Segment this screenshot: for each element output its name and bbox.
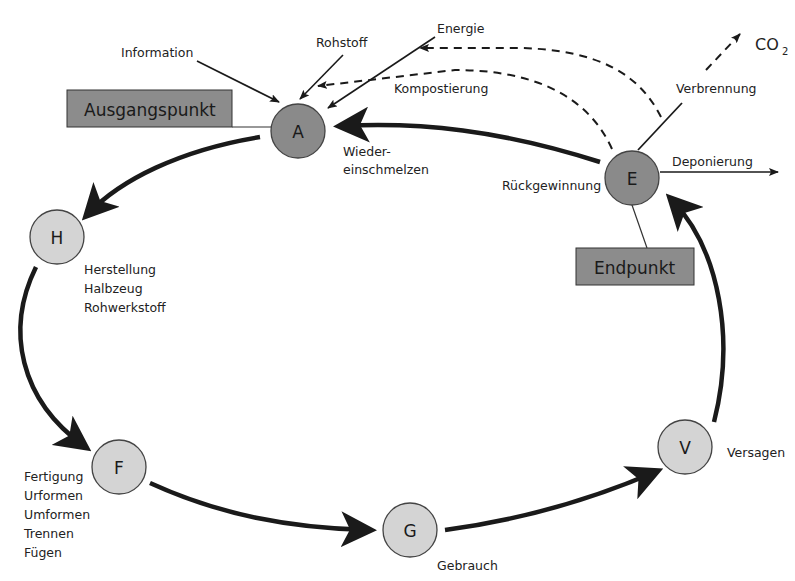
end-box-label: Endpunkt xyxy=(594,258,675,278)
node-a-letter: A xyxy=(292,122,304,142)
label-rueckgewinnung: Rückgewinnung xyxy=(502,178,601,193)
start-box-label: Ausgangspunkt xyxy=(84,100,216,120)
label-rohstoff: Rohstoff xyxy=(316,35,368,50)
node-f: F xyxy=(92,440,146,494)
label-f-line3: Umformen xyxy=(24,507,90,522)
life-cycle-diagram: Ausgangspunkt Endpunkt A H xyxy=(0,0,795,581)
label-f-line2: Urformen xyxy=(24,488,83,503)
label-a-line1: Wieder- xyxy=(343,144,391,159)
arrow-v-to-e xyxy=(672,200,723,422)
node-v-letter: V xyxy=(679,438,691,458)
node-a: A xyxy=(271,104,325,158)
label-energie: Energie xyxy=(437,21,485,36)
label-h-line2: Halbzeug xyxy=(84,281,143,296)
dashed-co2 xyxy=(706,34,740,70)
node-f-letter: F xyxy=(114,458,124,478)
node-v: V xyxy=(658,420,712,474)
co2-subscript: 2 xyxy=(782,46,788,57)
node-h-letter: H xyxy=(51,228,64,248)
node-g: G xyxy=(383,503,437,557)
verbrennung-line xyxy=(638,103,682,150)
label-gebrauch: Gebrauch xyxy=(437,558,498,573)
arrow-a-to-h xyxy=(88,137,260,214)
node-e: E xyxy=(605,151,659,205)
label-co2: CO 2 xyxy=(755,35,788,57)
label-information: Information xyxy=(121,45,193,60)
label-h-line1: Herstellung xyxy=(84,262,156,277)
node-e-letter: E xyxy=(627,169,638,189)
start-box: Ausgangspunkt xyxy=(67,90,272,127)
label-kompostierung: Kompostierung xyxy=(394,81,488,96)
arrow-h-to-f xyxy=(20,267,84,446)
label-f-line1: Fertigung xyxy=(24,469,83,484)
label-f-line5: Fügen xyxy=(24,545,62,560)
label-a-line2: einschmelzen xyxy=(343,162,429,177)
label-verbrennung: Verbrennung xyxy=(676,81,757,96)
co2-main: CO xyxy=(755,35,779,54)
arrow-f-to-g xyxy=(150,483,368,530)
arrow-rohstoff xyxy=(300,55,343,99)
label-deponierung: Deponierung xyxy=(672,154,753,169)
label-versagen: Versagen xyxy=(727,445,785,460)
arrow-g-to-v xyxy=(445,472,655,530)
label-f-line4: Trennen xyxy=(23,526,74,541)
node-h: H xyxy=(30,210,84,264)
node-g-letter: G xyxy=(403,521,416,541)
label-h-line3: Rohwerkstoff xyxy=(84,300,166,315)
end-box: Endpunkt xyxy=(576,205,694,285)
